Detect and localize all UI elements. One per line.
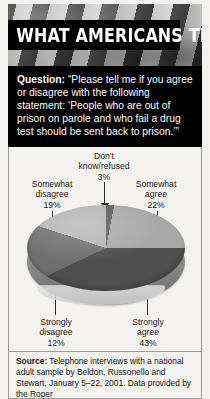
question-block: Question: “Please tell me if you agree o… <box>8 66 202 147</box>
pie-chart-panel: Don't know/refused 3% Somewhat disagree … <box>8 147 202 352</box>
title-bar: WHAT AMERICANS THINK <box>8 20 180 50</box>
slice-label-somewhat-agree-line2: agree <box>145 189 167 199</box>
slice-label-strongly-disagree-line2: disagree <box>40 327 73 337</box>
slice-value-strongly-disagree: 12% <box>21 338 91 348</box>
slice-label-strongly-disagree-line1: Strongly <box>40 317 72 327</box>
slice-label-dont-know: Don't know/refused 3% <box>67 151 141 182</box>
slice-value-strongly-agree: 43% <box>113 338 183 348</box>
slice-label-strongly-agree: Strongly agree 43% <box>113 317 183 348</box>
pie-top-face <box>27 205 185 291</box>
slice-label-somewhat-disagree-line2: disagree <box>36 189 69 199</box>
slice-label-strongly-agree-line2: agree <box>137 327 159 337</box>
source-text: Source: Telephone interviews with a nati… <box>16 356 194 399</box>
slice-label-dont-know-line2: know/refused <box>78 161 129 171</box>
slice-label-somewhat-disagree-line1: Somewhat <box>32 179 73 189</box>
question-label: Question: <box>17 74 65 85</box>
source-label: Source: <box>16 356 47 366</box>
slice-label-strongly-disagree: Strongly disagree 12% <box>21 317 91 348</box>
infographic-card: WHAT AMERICANS THINK Question: “Please t… <box>0 0 210 399</box>
pie-chart <box>27 205 185 317</box>
question-text: Question: “Please tell me if you agree o… <box>17 73 193 138</box>
header-banner: WHAT AMERICANS THINK <box>8 4 202 66</box>
page-title: WHAT AMERICANS THINK <box>8 24 202 46</box>
source-block: Source: Telephone interviews with a nati… <box>8 352 202 399</box>
slice-label-dont-know-line1: Don't <box>94 151 114 161</box>
slice-label-somewhat-agree-line1: Somewhat <box>136 179 177 189</box>
slice-label-strongly-agree-line1: Strongly <box>132 317 164 327</box>
